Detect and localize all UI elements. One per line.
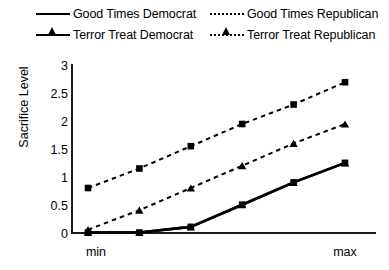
data-point-square-marker (136, 165, 143, 172)
data-point-triangle-marker (289, 140, 297, 147)
series-line (88, 163, 345, 233)
data-point-square-marker (85, 185, 92, 192)
chart-figure: Good Times Democrat Good Times Republica… (0, 0, 389, 270)
data-point-triangle-marker (135, 207, 143, 214)
series-line (88, 163, 345, 233)
series-line (88, 82, 345, 188)
data-point-triangle-marker (187, 184, 195, 191)
data-point-square-marker (239, 121, 246, 128)
data-point-square-marker (188, 224, 195, 231)
data-point-square-marker (188, 143, 195, 150)
chart-series-terror-treat-democrat (85, 160, 349, 236)
chart-series-terror-treat-republican (85, 79, 349, 191)
data-point-triangle-marker (238, 162, 246, 169)
data-point-square-marker (239, 201, 246, 208)
data-point-square-marker (290, 179, 297, 186)
data-point-square-marker (136, 229, 143, 236)
data-point-triangle-marker (341, 120, 349, 127)
chart-plot-area (0, 0, 389, 270)
chart-series-good-times-democrat (84, 159, 349, 236)
data-point-square-marker (342, 79, 349, 86)
data-point-square-marker (342, 160, 349, 167)
data-point-square-marker (290, 101, 297, 108)
